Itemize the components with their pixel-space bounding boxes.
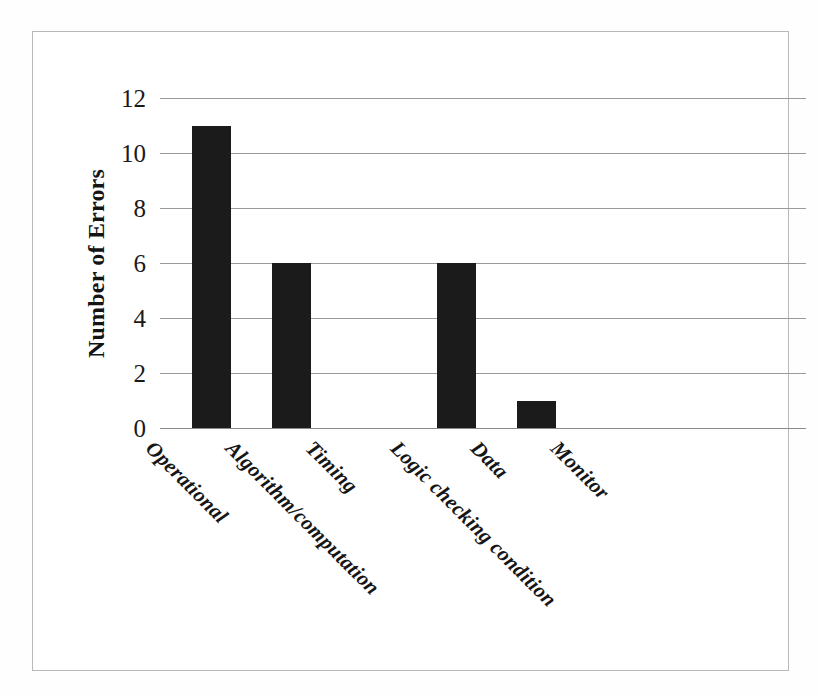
x-tick-label: Operational [140,436,233,529]
figure-page: Number of Errors 024681012 OperationalAl… [0,0,819,697]
bar[interactable] [437,263,476,428]
gridline-10: 10 [160,153,806,154]
bar[interactable] [192,126,231,429]
gridline-8: 8 [160,208,806,209]
y-tick-label-4: 4 [134,306,147,331]
y-tick-label-8: 8 [134,196,147,221]
gridline-4: 4 [160,318,806,319]
plot-area: 024681012 [160,98,806,428]
x-tick-label: Monitor [545,436,614,505]
bar[interactable] [272,263,311,428]
gridline-0: 0 [160,428,806,429]
gridline-2: 2 [160,373,806,374]
x-tick-label: Logic checking condition [385,436,561,612]
y-tick-label-2: 2 [134,361,147,386]
y-axis-title: Number of Errors [79,98,113,428]
y-tick-label-12: 12 [121,86,146,111]
x-tick-label: Timing [300,436,363,499]
bar[interactable] [517,401,556,429]
figure-frame: Number of Errors 024681012 OperationalAl… [32,31,789,671]
gridline-6: 6 [160,263,806,264]
y-tick-label-6: 6 [134,251,147,276]
x-tick-label: Algorithm/computation [220,436,384,600]
y-tick-label-0: 0 [134,416,147,441]
x-tick-label: Data [465,436,513,484]
y-tick-label-10: 10 [121,141,146,166]
gridline-12: 12 [160,98,806,99]
y-axis-title-text: Number of Errors [83,169,110,358]
